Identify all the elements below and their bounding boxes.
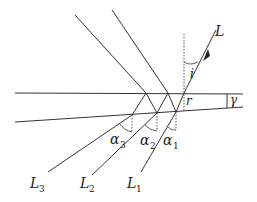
- label-alpha1-sub: 1: [173, 141, 179, 151]
- internal-ray-path: [132, 93, 184, 115]
- top-surface: [15, 93, 243, 94]
- bottom-surface: [15, 107, 243, 122]
- label-L3-sub: 3: [39, 184, 45, 194]
- arc-alpha1: [168, 127, 176, 130]
- reflected-ray-2: [75, 15, 146, 93]
- label-alpha2: α: [140, 132, 150, 148]
- label-gamma: γ: [230, 93, 238, 107]
- label-L1: L: [126, 175, 136, 191]
- label-alpha3-sub: 3: [120, 140, 126, 150]
- arc-i: [184, 62, 198, 64]
- arc-alpha3: [119, 123, 132, 132]
- label-alpha2-sub: 2: [150, 141, 156, 151]
- arrow-icon: [203, 49, 210, 61]
- arc-alpha2: [145, 125, 157, 131]
- label-L1-sub: 1: [136, 184, 142, 194]
- label-alpha1: α: [163, 132, 173, 148]
- label-L: L: [214, 23, 224, 39]
- label-i: i: [190, 67, 194, 81]
- label-alpha3: α: [110, 131, 120, 147]
- label-r: r: [186, 94, 193, 108]
- label-L3: L: [29, 175, 39, 191]
- label-L2-sub: 2: [89, 184, 95, 194]
- reflected-ray-1: [112, 10, 168, 93]
- diagram-svg: L i r γ α 1 α 2 α 3 L 1 L 2 L 3: [0, 0, 257, 202]
- label-L2: L: [79, 175, 89, 191]
- wedge-diagram: L i r γ α 1 α 2 α 3 L 1 L 2 L 3: [0, 0, 257, 202]
- incident-ray: [184, 30, 216, 93]
